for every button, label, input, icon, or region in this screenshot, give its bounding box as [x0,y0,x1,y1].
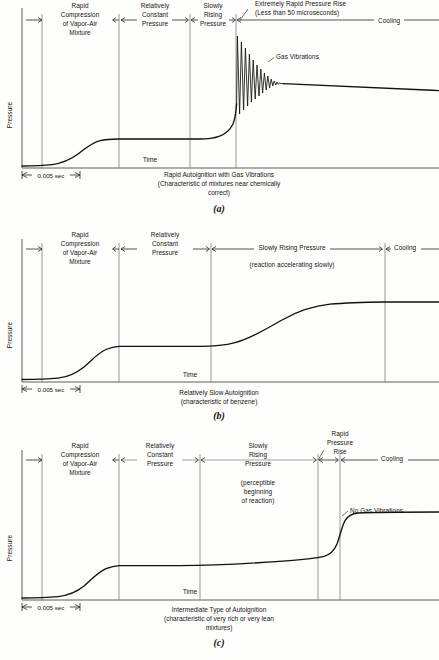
caption-c-line2: (characteristic of very rich or very lea… [164,615,274,623]
curve-a-cooling-tail [283,84,439,91]
label-a-compression-2: Compression [61,11,100,19]
y-axis-label-b: Pressure [6,321,13,348]
label-a-rapid-rise-2: (Less than 50 microseconds) [255,9,339,17]
caption-b-line1: Relatively Slow Autoignition [179,389,259,397]
panel-b: Rapid Compression of Vapor-Air Mixture R… [0,225,439,425]
figure-root: Rapid Compression of Vapor-Air Mixture R… [0,0,439,660]
label-c-constant-2: Constant [147,451,173,458]
pointer-c-no-gas-vibrations [342,511,348,516]
label-b-constant-3: Pressure [152,249,179,256]
x-axis-label-c: Time [183,588,198,595]
panel-letter-c: (c) [213,637,224,649]
leader-a-constant-left [121,18,137,23]
label-a-cooling-top: Cooling [378,17,401,25]
panel-c-chart: Rapid Compression of Vapor-Air Mixture R… [0,428,439,660]
label-a-rising-2: Rising [204,11,223,19]
scale-bar-label-a: 0.005 sec [38,172,65,179]
panel-letter-a: (a) [213,203,225,215]
leader-a-rising-left [191,18,198,23]
label-c-constant-1: Relatively [146,442,175,450]
scale-bar-label-b: 0.005 sec [38,386,65,393]
panel-a: Rapid Compression of Vapor-Air Mixture R… [0,0,439,222]
label-c-subnote-2: beginning [244,488,273,496]
y-axis-label-a: Pressure [6,101,13,128]
label-c-compression-4: Mixture [69,469,91,476]
curve-a-vibrations [237,36,284,114]
label-a-constant-3: Pressure [142,20,169,27]
leader-c-rapid-rise [319,458,339,463]
leader-a-compression-left [26,18,42,23]
leader-c-compression-left [26,458,42,463]
panel-b-chart: Rapid Compression of Vapor-Air Mixture R… [0,225,439,425]
curve-a-main [22,104,237,166]
label-a-compression-3: of Vapor-Air [63,20,98,28]
leader-a-cooling-line [237,18,439,23]
label-b-compression-1: Rapid [71,231,88,239]
leader-a-constant-right [172,18,189,23]
label-a-compression-1: Rapid [71,2,88,10]
x-axis-label-b: Time [183,371,198,378]
pointer-a-gas-vibrations [268,58,274,63]
label-c-constant-3: Pressure [147,460,174,467]
label-a-rising-1: Slowly [204,2,224,10]
leader-b-compression-right [113,247,120,252]
y-axis-label-c: Pressure [6,534,13,561]
label-a-gas-vibrations: Gas Vibrations [276,53,319,60]
panel-letter-b: (b) [213,410,225,422]
scale-bar-label-c: 0.005 sec [38,604,65,611]
label-a-constant-2: Constant [142,11,168,18]
label-c-rising-3: Pressure [245,460,272,467]
label-c-subnote-1: (perceptible [241,479,276,487]
label-b-compression-4: Mixture [69,258,91,265]
leader-a-compression-right [113,18,120,23]
label-c-rapid-rise-3: Rise [333,448,346,455]
label-b-constant-1: Relatively [151,231,180,239]
label-a-compression-4: Mixture [69,29,91,36]
label-c-no-gas-vibrations: No Gas Vibrations [350,507,403,514]
leader-b-constant-left [121,247,137,252]
label-c-compression-1: Rapid [71,442,88,450]
caption-a-line1: Rapid Autoignition with Gas Vibrations [164,171,275,179]
pointer-a-rapid-rise [240,9,248,20]
leader-b-constant-right [193,247,210,252]
label-c-cooling: Cooling [381,455,404,463]
panel-a-chart: Rapid Compression of Vapor-Air Mixture R… [0,0,439,222]
label-a-rapid-rise-1: Extremely Rapid Pressure Rise [255,0,346,8]
label-c-rapid-rise-1: Rapid [331,430,348,438]
label-a-constant-1: Relatively [141,2,170,10]
label-b-compression-2: Compression [61,240,100,248]
label-c-rising-2: Rising [249,451,268,459]
label-c-rapid-rise-2: Pressure [327,439,354,446]
label-c-compression-2: Compression [61,451,100,459]
label-b-cooling: Cooling [394,244,417,252]
leader-c-compression-right [113,458,120,463]
label-c-subnote-3: of reaction) [242,497,275,505]
curve-c-main [22,512,439,598]
leader-b-compression-left [26,247,42,252]
caption-a-line2: (Characteristic of mixtures near chemica… [158,180,281,188]
label-b-constant-2: Constant [152,240,178,247]
panel-c: Rapid Compression of Vapor-Air Mixture R… [0,428,439,660]
leader-a-rising-right [229,18,236,23]
curve-b-main [22,302,439,380]
label-c-rising-1: Slowly [249,442,269,450]
label-b-rising: Slowly Rising Pressure [258,244,325,252]
caption-c-line3: mixtures) [206,624,233,632]
caption-b-line2: (characteristic of benzene) [181,398,258,406]
caption-a-line3: correct) [208,189,230,197]
caption-c-line1: Intermediate Type of Autoignition [172,606,267,614]
label-c-compression-3: of Vapor-Air [63,460,98,468]
label-b-compression-3: of Vapor-Air [63,249,98,257]
label-a-rising-3: Pressure [200,20,227,27]
x-axis-label-a: Time [143,156,158,163]
label-b-subnote: (reaction accelerating slowly) [250,261,335,269]
